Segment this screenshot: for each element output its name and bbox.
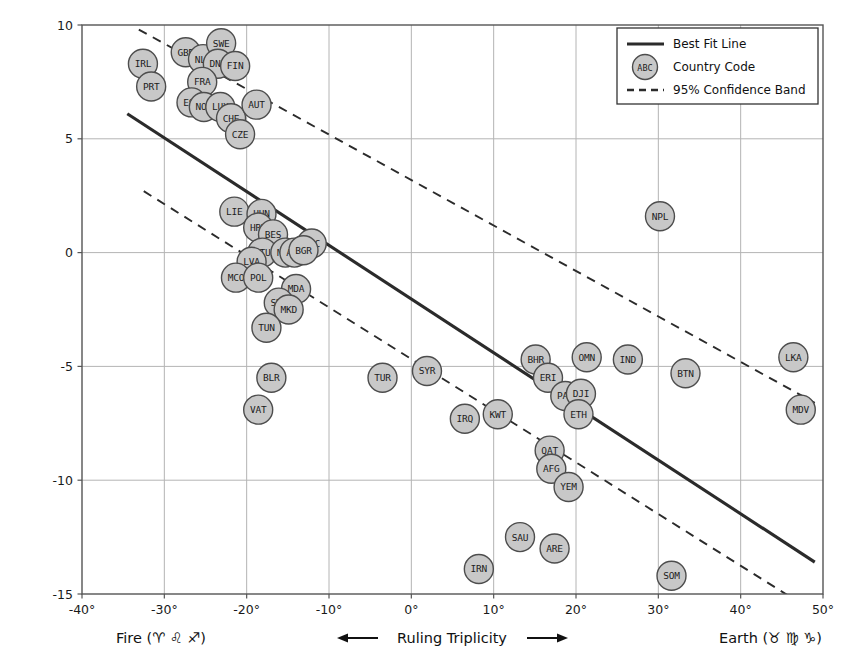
data-point-label: LIE [226,206,243,217]
data-point-label: BTN [677,368,694,379]
y-tick-label: -5 [61,359,73,374]
footer-right-label: Earth (♉ ♍ ♑) [719,630,822,646]
data-point-label: CZE [232,129,249,140]
data-point-kwt[interactable]: KWT [483,400,512,429]
x-tick-label: 50° [812,602,834,617]
y-tick-label: 5 [65,131,73,146]
data-point-label: SAU [512,532,529,543]
data-point-aut[interactable]: AUT [242,90,271,119]
data-point-lka[interactable]: LKA [779,343,808,372]
x-tick-label: -10° [316,602,343,617]
chart-root: Spartacus Gay Travel Index Score for the… [0,0,849,668]
x-tick-label: -40° [69,602,96,617]
data-point-label: SYR [419,365,436,376]
data-point-pol[interactable]: POL [244,263,273,292]
legend-label-confidence-band: 95% Confidence Band [673,83,806,97]
legend: Best Fit Line ABC Country Code 95% Confi… [617,28,818,104]
data-point-label: BHR [527,354,544,365]
data-point-are[interactable]: ARE [540,534,569,563]
data-point-label: IND [620,354,637,365]
data-point-sau[interactable]: SAU [506,523,535,552]
data-point-yem[interactable]: YEM [554,473,583,502]
data-point-label: SWE [213,38,230,49]
data-point-vat[interactable]: VAT [244,395,273,424]
data-point-label: YEM [560,481,577,492]
data-point-label: MDV [792,404,809,415]
data-point-label: ERI [540,372,557,383]
data-point-label: ETH [570,409,587,420]
data-point-syr[interactable]: SYR [412,356,441,385]
data-point-label: KWT [490,409,507,420]
data-point-label: IRQ [457,413,474,424]
data-point-blr[interactable]: BLR [257,363,286,392]
data-point-label: IRL [135,58,152,69]
data-point-label: DJI [573,388,590,399]
legend-label-best-fit: Best Fit Line [673,37,746,51]
data-point-npl[interactable]: NPL [645,202,674,231]
data-point-label: BES [265,229,282,240]
legend-marker-text: ABC [637,63,652,73]
data-point-label: VAT [250,404,267,415]
scatter-plot: IRLPRTGBRNLDSWEDNKFINFRAESPNORLUXCHEAUTC… [0,0,849,668]
data-point-label: FRA [194,76,211,87]
data-point-ind[interactable]: IND [613,345,642,374]
data-point-label: PRT [143,81,160,92]
x-tick-label: -20° [233,602,260,617]
data-point-tur[interactable]: TUR [368,363,397,392]
data-point-label: OMN [578,352,595,363]
footer-left-label: Fire (♈ ♌ ♐) [116,630,206,646]
data-point-label: LKA [785,352,802,363]
data-point-mdv[interactable]: MDV [786,395,815,424]
data-point-label: NPL [652,211,669,222]
y-tick-label: -15 [53,587,73,602]
data-point-label: MKD [280,304,297,315]
x-tick-label: 0° [404,602,418,617]
y-tick-label: 10 [57,18,73,33]
data-point-btn[interactable]: BTN [671,359,700,388]
x-tick-label: -30° [151,602,178,617]
data-point-label: SOM [663,570,680,581]
data-point-eth[interactable]: ETH [564,400,593,429]
data-point-irq[interactable]: IRQ [450,404,479,433]
data-point-label: TUR [374,372,391,383]
x-tick-label: 10° [483,602,505,617]
data-point-som[interactable]: SOM [657,561,686,590]
data-point-label: AUT [248,99,265,110]
data-point-bgr[interactable]: BGR [289,236,318,265]
x-tick-label: 40° [730,602,752,617]
x-tick-label: 20° [565,602,587,617]
data-point-label: AFG [543,463,560,474]
data-point-irn[interactable]: IRN [464,554,493,583]
legend-label-country-code: Country Code [673,60,755,74]
data-point-tun[interactable]: TUN [252,313,281,342]
y-tick-label: -10 [53,473,73,488]
data-point-label: ARE [546,543,563,554]
data-point-label: BGR [295,245,312,256]
data-point-label: POL [250,272,267,283]
footer-center-label: Ruling Triplicity [397,630,507,646]
data-point-fin[interactable]: FIN [221,51,250,80]
y-tick-label: 0 [65,245,73,260]
data-point-prt[interactable]: PRT [137,72,166,101]
x-tick-label: 30° [647,602,669,617]
data-point-label: MDA [288,283,305,294]
data-point-label: FIN [227,60,244,71]
data-point-label: BLR [263,372,280,383]
data-point-label: MCO [228,272,245,283]
data-point-omn[interactable]: OMN [572,343,601,372]
data-point-label: IRN [471,563,488,574]
data-point-cze[interactable]: CZE [226,120,255,149]
data-point-label: TUN [258,322,275,333]
